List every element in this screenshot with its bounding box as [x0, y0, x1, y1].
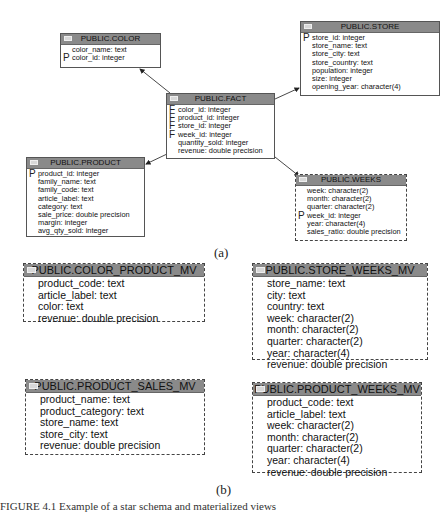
table-icon: [27, 267, 36, 273]
table-icon: [256, 267, 265, 273]
table-public-product[interactable]: PUBLIC.PRODUCT Pproduct_id: integer fami…: [26, 157, 145, 237]
table-icon: [29, 383, 38, 389]
column-row: opening_year: character(4): [303, 83, 437, 91]
column-row: revenue: double precision: [38, 313, 200, 325]
column-row: year: character(4): [267, 455, 417, 467]
column-row: product_code: text: [38, 278, 200, 290]
table-public-color[interactable]: PUBLIC.COLOR color_name: text Pcolor_id:…: [60, 33, 161, 68]
view-header: PUBLIC.STORE_WEEKS_MV: [253, 264, 427, 277]
view-store-weeks-mv[interactable]: PUBLIC.STORE_WEEKS_MV store_name: text c…: [252, 263, 428, 360]
column-row: product_code: text: [267, 397, 417, 409]
table-header: PUBLIC.WEEKS: [296, 175, 406, 186]
subfigure-label-a: (a): [214, 245, 228, 261]
view-product-sales-mv[interactable]: PUBLIC.PRODUCT_SALES_MV product_name: te…: [25, 379, 205, 455]
table-public-weeks[interactable]: PUBLIC.WEEKS week: character(2) month: c…: [295, 174, 407, 241]
table-public-fact[interactable]: PUBLIC.FACT Fcolor_id: integer Fproduct_…: [166, 93, 275, 159]
column-row: product_name: text: [40, 394, 200, 406]
table-header: PUBLIC.FACT: [167, 94, 274, 105]
fact-to-product-link: [146, 154, 167, 164]
column-row: sales_ratio: double precision: [298, 228, 404, 236]
figure-caption: FIGURE 4.1 Example of a star schema and …: [0, 500, 276, 512]
view-header: PUBLIC.PRODUCT_SALES_MV: [26, 380, 204, 393]
column-row: revenue: double precision: [267, 359, 423, 371]
fact-to-color-link: [140, 69, 170, 93]
table-header: PUBLIC.STORE: [301, 22, 439, 33]
fact-to-store-link: [275, 88, 299, 99]
column-row: revenue: double precision: [169, 147, 272, 155]
table-icon: [170, 96, 178, 101]
table-icon: [256, 386, 265, 392]
column-row: avg_qty_sold: integer: [29, 227, 142, 235]
column-row: revenue: double precision: [267, 467, 417, 479]
table-icon: [64, 36, 72, 41]
subfigure-label-b: (b): [216, 482, 231, 498]
table-icon: [30, 160, 38, 165]
column-row: Pcolor_id: integer: [63, 54, 158, 62]
view-color-product-mv[interactable]: PUBLIC.COLOR_PRODUCT_MV product_code: te…: [23, 263, 205, 322]
table-icon: [299, 177, 307, 182]
view-header: PUBLIC.PRODUCT_WEEKS_MV: [253, 383, 421, 396]
table-icon: [304, 24, 312, 29]
primary-key-marker: P: [63, 53, 70, 63]
column-row: store_name: text: [267, 278, 423, 290]
view-header: PUBLIC.COLOR_PRODUCT_MV: [24, 264, 204, 277]
table-header: PUBLIC.PRODUCT: [27, 158, 144, 169]
column-row: revenue: double precision: [40, 440, 200, 452]
column-row: quarter: character(2): [267, 336, 423, 348]
table-public-store[interactable]: PUBLIC.STORE Pstore_id: integer store_na…: [300, 21, 440, 96]
view-product-weeks-mv[interactable]: PUBLIC.PRODUCT_WEEKS_MV product_code: te…: [252, 382, 422, 473]
table-header: PUBLIC.COLOR: [61, 34, 160, 45]
